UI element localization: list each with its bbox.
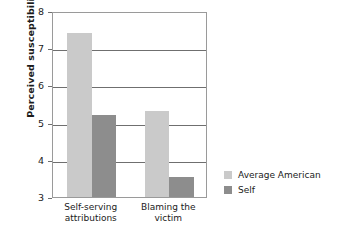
y-axis-tick-label: 7 (30, 43, 44, 54)
bar (169, 177, 194, 197)
chart-legend: Average AmericanSelf (224, 170, 321, 200)
plot-area (52, 12, 207, 198)
legend-swatch (224, 171, 232, 179)
bar (145, 111, 170, 197)
y-axis-tick-label: 8 (30, 6, 44, 17)
y-axis-tick-label: 3 (30, 192, 44, 203)
legend-swatch (224, 186, 232, 194)
y-axis-tick-label: 5 (30, 118, 44, 129)
x-axis-category-label: Blaming the victim (130, 202, 208, 224)
bar-chart-figure: Perceived susceptibility 345678 Self-ser… (0, 0, 337, 235)
legend-label: Average American (238, 170, 321, 180)
x-axis-category-label: Self-serving attributions (52, 202, 130, 224)
y-axis-tick-label: 4 (30, 155, 44, 166)
y-axis-tick-label: 6 (30, 80, 44, 91)
legend-item[interactable]: Self (224, 185, 321, 195)
legend-label: Self (238, 185, 255, 195)
y-axis-tick-mark (48, 198, 52, 199)
bar (92, 115, 117, 197)
bar (67, 33, 92, 197)
legend-item[interactable]: Average American (224, 170, 321, 180)
